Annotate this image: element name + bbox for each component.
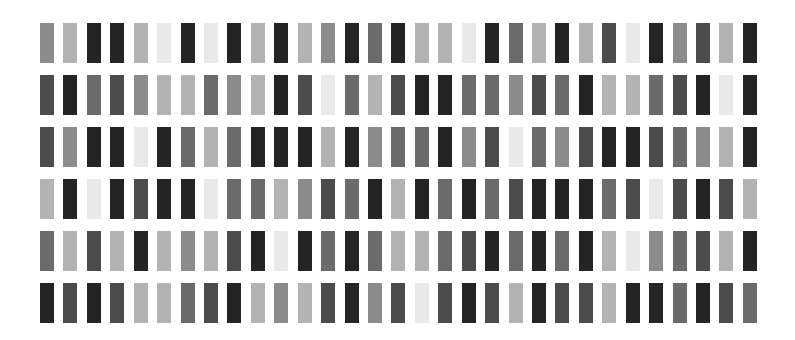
- gray-bar: [509, 179, 523, 219]
- gray-bar: [40, 283, 54, 323]
- gray-bar: [345, 127, 359, 167]
- gray-bar: [485, 75, 499, 115]
- gray-bar: [181, 179, 195, 219]
- gray-bar: [626, 283, 640, 323]
- gray-bar: [602, 23, 616, 63]
- gray-bar: [391, 75, 405, 115]
- gray-bar: [134, 283, 148, 323]
- gray-bar: [321, 23, 335, 63]
- gray-bar: [40, 127, 54, 167]
- gray-bar: [298, 179, 312, 219]
- gray-bar: [626, 179, 640, 219]
- gray-bar: [415, 283, 429, 323]
- gray-bar: [321, 179, 335, 219]
- gray-bar: [485, 179, 499, 219]
- gray-bar: [579, 179, 593, 219]
- gray-bar: [602, 283, 616, 323]
- gray-bar: [579, 231, 593, 271]
- gray-bar: [649, 231, 663, 271]
- gray-bar: [87, 179, 101, 219]
- gray-bar: [719, 283, 733, 323]
- gray-bar: [274, 127, 288, 167]
- gray-bar: [743, 75, 757, 115]
- gray-bar: [321, 231, 335, 271]
- gray-bar: [743, 231, 757, 271]
- gray-bar: [298, 231, 312, 271]
- gray-bar: [204, 75, 218, 115]
- gray-bar: [719, 231, 733, 271]
- gray-bar: [181, 231, 195, 271]
- gray-bar: [368, 231, 382, 271]
- gray-bar: [579, 127, 593, 167]
- gray-bar: [63, 23, 77, 63]
- gray-bar: [157, 231, 171, 271]
- gray-bar: [438, 23, 452, 63]
- gray-bar: [719, 127, 733, 167]
- gray-bar: [391, 23, 405, 63]
- gray-bar: [298, 23, 312, 63]
- gray-bar: [743, 283, 757, 323]
- gray-bar: [509, 75, 523, 115]
- gray-bar: [274, 283, 288, 323]
- gray-bar: [204, 23, 218, 63]
- gray-bar: [321, 283, 335, 323]
- gray-bar: [274, 179, 288, 219]
- gray-bar: [227, 179, 241, 219]
- gray-bar: [204, 127, 218, 167]
- gray-bar: [157, 127, 171, 167]
- gray-bar: [438, 283, 452, 323]
- gray-bar: [602, 179, 616, 219]
- gray-bar: [719, 179, 733, 219]
- gray-bar: [87, 231, 101, 271]
- gray-bar: [157, 179, 171, 219]
- gray-bar: [555, 179, 569, 219]
- gray-bar: [555, 23, 569, 63]
- gray-bar: [110, 75, 124, 115]
- gray-bar: [181, 127, 195, 167]
- gray-bar: [227, 23, 241, 63]
- gray-bar: [63, 231, 77, 271]
- gray-bar: [345, 179, 359, 219]
- gray-bar: [63, 75, 77, 115]
- gray-bar: [134, 231, 148, 271]
- gray-bar: [204, 231, 218, 271]
- gray-bar: [415, 127, 429, 167]
- gray-bar: [602, 75, 616, 115]
- gray-bar: [509, 127, 523, 167]
- gray-bar: [345, 231, 359, 271]
- gray-bar: [87, 127, 101, 167]
- gray-bar: [509, 231, 523, 271]
- gray-bar: [110, 283, 124, 323]
- gray-bar: [345, 75, 359, 115]
- gray-bar: [532, 127, 546, 167]
- gray-bar: [110, 179, 124, 219]
- gray-bar: [227, 75, 241, 115]
- gray-bar: [532, 23, 546, 63]
- gray-bar: [438, 75, 452, 115]
- gray-bar: [110, 231, 124, 271]
- gray-bar: [485, 283, 499, 323]
- gray-bar: [368, 75, 382, 115]
- gray-bar: [673, 75, 687, 115]
- gray-bar: [555, 283, 569, 323]
- gray-bar: [415, 231, 429, 271]
- gray-bar: [251, 283, 265, 323]
- gray-bar: [391, 179, 405, 219]
- gray-bar: [227, 283, 241, 323]
- gray-bar: [181, 75, 195, 115]
- gray-bar: [157, 75, 171, 115]
- gray-bar: [274, 231, 288, 271]
- gray-bar: [485, 231, 499, 271]
- gray-bar: [40, 75, 54, 115]
- gray-bar: [532, 75, 546, 115]
- gray-bar: [368, 23, 382, 63]
- gray-bar: [391, 283, 405, 323]
- gray-bar: [555, 75, 569, 115]
- gray-bar: [40, 231, 54, 271]
- gray-bar: [438, 127, 452, 167]
- gray-bar: [673, 283, 687, 323]
- gray-bar: [462, 283, 476, 323]
- gray-bar: [696, 231, 710, 271]
- gray-bar: [134, 75, 148, 115]
- gray-bar: [532, 283, 546, 323]
